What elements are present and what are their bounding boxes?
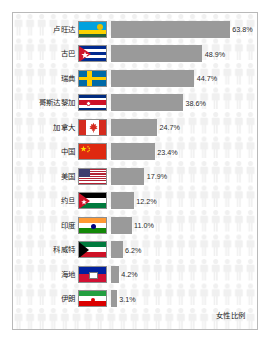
table-row[interactable]: 中国 23.4% bbox=[13, 140, 258, 165]
country-label: 约旦 bbox=[13, 197, 78, 204]
bar-value-label: 44.7% bbox=[194, 74, 217, 83]
chart-frame: 卢旺达 63.8% 古巴 bbox=[12, 12, 258, 330]
bar-track: 11.0% bbox=[111, 217, 258, 234]
country-label: 瑞典 bbox=[13, 75, 78, 82]
country-label: 美国 bbox=[13, 173, 78, 180]
bar-value-label: 24.7% bbox=[157, 123, 180, 132]
bar-track: 6.2% bbox=[111, 241, 258, 258]
bar-fill bbox=[111, 21, 230, 38]
star-icon bbox=[81, 199, 87, 205]
bar-value-label: 3.1% bbox=[117, 294, 136, 303]
table-row[interactable]: 印度 11.0% bbox=[13, 213, 258, 238]
bar-track: 23.4% bbox=[111, 143, 258, 160]
bar-track: 12.2% bbox=[111, 192, 258, 209]
bar-fill bbox=[111, 94, 183, 111]
bar-track: 17.9% bbox=[111, 168, 258, 185]
bar-value-label: 6.2% bbox=[123, 245, 142, 254]
china-flag bbox=[78, 143, 107, 160]
rwanda-flag bbox=[78, 21, 107, 38]
table-row[interactable]: 海地 4.2% bbox=[13, 262, 258, 287]
table-row[interactable]: 加拿大 24.7% bbox=[13, 115, 258, 140]
table-row[interactable]: 瑞典 44.7% bbox=[13, 66, 258, 91]
country-label: 古巴 bbox=[13, 50, 78, 57]
bar-value-label: 11.0% bbox=[132, 221, 154, 230]
bar-track: 24.7% bbox=[111, 119, 258, 136]
x-axis-label: 女性比例 bbox=[216, 309, 245, 320]
table-row[interactable]: 约旦 12.2% bbox=[13, 189, 258, 214]
bar-value-label: 4.2% bbox=[119, 270, 138, 279]
bar-fill bbox=[111, 45, 202, 62]
bar-value-label: 38.6% bbox=[183, 98, 206, 107]
table-row[interactable]: 哥斯达黎加 38.6% bbox=[13, 91, 258, 116]
country-label: 中国 bbox=[13, 148, 78, 155]
canada-flag bbox=[78, 119, 107, 136]
table-row[interactable]: 伊朗 3.1% bbox=[13, 287, 258, 312]
bar-value-label: 23.4% bbox=[155, 147, 178, 156]
india-flag bbox=[78, 217, 107, 234]
maple-leaf-icon bbox=[89, 122, 98, 133]
bar-fill bbox=[111, 192, 134, 209]
haiti-flag bbox=[78, 266, 107, 283]
sweden-flag bbox=[78, 70, 107, 87]
bar-track: 63.8% bbox=[111, 21, 258, 38]
bar-track: 4.2% bbox=[111, 266, 258, 283]
country-label: 哥斯达黎加 bbox=[13, 99, 78, 106]
costa-rica-flag bbox=[78, 94, 107, 111]
country-label: 海地 bbox=[13, 271, 78, 278]
bar-fill bbox=[111, 70, 194, 87]
bar-value-label: 63.8% bbox=[230, 25, 253, 34]
star-icon bbox=[81, 51, 89, 59]
bar-track: 44.7% bbox=[111, 70, 258, 87]
country-label: 加拿大 bbox=[13, 124, 78, 131]
bar-value-label: 12.2% bbox=[134, 196, 157, 205]
kuwait-flag bbox=[78, 241, 107, 258]
country-label: 印度 bbox=[13, 222, 78, 229]
bar-rows-container: 卢旺达 63.8% 古巴 bbox=[13, 17, 258, 311]
bar-value-label: 48.9% bbox=[202, 49, 225, 58]
bar-fill bbox=[111, 119, 157, 136]
iran-flag bbox=[78, 290, 107, 307]
country-label: 伊朗 bbox=[13, 295, 78, 302]
usa-flag bbox=[78, 168, 107, 185]
bar-track: 48.9% bbox=[111, 45, 258, 62]
star-icon bbox=[80, 145, 94, 155]
bar-fill bbox=[111, 266, 119, 283]
bar-fill bbox=[111, 241, 123, 258]
table-row[interactable]: 卢旺达 63.8% bbox=[13, 17, 258, 42]
table-row[interactable]: 古巴 48.9% bbox=[13, 42, 258, 67]
jordan-flag bbox=[78, 192, 107, 209]
bar-fill bbox=[111, 168, 144, 185]
table-row[interactable]: 美国 17.9% bbox=[13, 164, 258, 189]
bar-value-label: 17.9% bbox=[144, 172, 167, 181]
country-label: 卢旺达 bbox=[13, 26, 78, 33]
bar-fill bbox=[111, 217, 132, 234]
bar-fill bbox=[111, 143, 155, 160]
country-label: 科威特 bbox=[13, 246, 78, 253]
cuba-flag bbox=[78, 45, 107, 62]
bar-track: 3.1% bbox=[111, 290, 258, 307]
table-row[interactable]: 科威特 6.2% bbox=[13, 238, 258, 263]
bar-track: 38.6% bbox=[111, 94, 258, 111]
